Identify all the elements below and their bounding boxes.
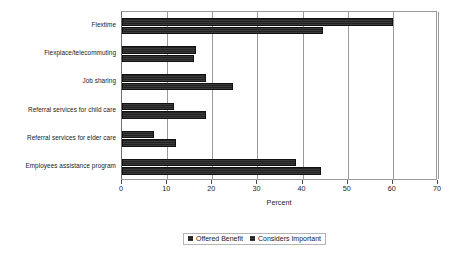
category-label: Flexplace/telecommuting <box>4 49 116 57</box>
bar-chart: FlextimeFlexplace/telecommutingJob shari… <box>0 0 465 255</box>
legend-swatch-icon <box>250 236 255 241</box>
x-tick-label: 40 <box>290 184 314 193</box>
category-label: Referral services for child care <box>4 106 116 114</box>
x-tick-label: 10 <box>154 184 178 193</box>
chart-legend: Offered Benefit Considers Important <box>183 233 326 245</box>
legend-swatch-icon <box>188 236 193 241</box>
legend-item-considers-important: Considers Important <box>250 235 321 242</box>
gridline <box>438 12 439 179</box>
legend-label: Considers Important <box>258 235 321 242</box>
bar <box>122 46 196 54</box>
category-axis-labels: FlextimeFlexplace/telecommutingJob shari… <box>4 11 116 180</box>
bars-layer <box>122 12 436 179</box>
bar <box>122 159 296 167</box>
bar <box>122 74 206 82</box>
x-tick-label: 0 <box>109 184 133 193</box>
x-axis: 010203040506070 <box>121 180 437 198</box>
bar <box>122 131 154 139</box>
x-tick-label: 60 <box>380 184 404 193</box>
bar <box>122 83 233 91</box>
plot-area <box>121 11 437 180</box>
x-axis-title: Percent <box>121 198 437 207</box>
x-tick-label: 20 <box>199 184 223 193</box>
category-label: Flextime <box>4 21 116 29</box>
bar <box>122 167 321 175</box>
x-tick-label: 50 <box>335 184 359 193</box>
category-label: Job sharing <box>4 77 116 85</box>
bar <box>122 111 206 119</box>
category-label: Referral services for elder care <box>4 134 116 142</box>
x-tick-label: 30 <box>244 184 268 193</box>
legend-item-offered-benefit: Offered Benefit <box>188 235 243 242</box>
bar <box>122 27 323 35</box>
bar <box>122 18 393 26</box>
category-label: Employees assistance program <box>4 162 116 170</box>
bar <box>122 55 194 63</box>
legend-label: Offered Benefit <box>196 235 243 242</box>
x-tick-label: 70 <box>425 184 449 193</box>
bar <box>122 139 176 147</box>
bar <box>122 103 174 111</box>
